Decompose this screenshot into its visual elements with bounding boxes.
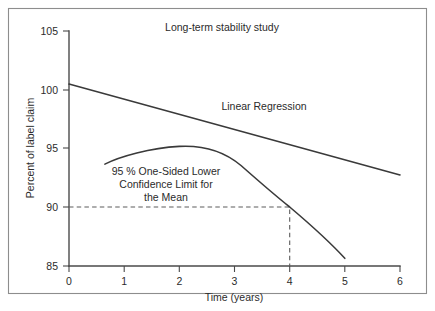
linear-regression-label: Linear Regression (221, 100, 306, 112)
x-tick-label-4: 4 (287, 275, 293, 287)
confidence-limit-label-line3: the Mean (144, 191, 188, 203)
confidence-limit-label: 95 % One-Sided Lower Confidence Limit fo… (112, 165, 221, 203)
x-tick-label-1: 1 (121, 275, 127, 287)
x-tick-label-5: 5 (342, 275, 348, 287)
x-tick-label-2: 2 (176, 275, 182, 287)
y-tick-label-95: 95 (46, 142, 58, 154)
x-axis-title: Time (years) (205, 291, 264, 303)
confidence-limit-label-line1: 95 % One-Sided Lower (112, 165, 221, 177)
y-tick-label-85: 85 (46, 260, 58, 272)
x-axis-ticks (69, 266, 400, 272)
x-tick-label-3: 3 (232, 275, 238, 287)
x-tick-label-0: 0 (66, 275, 72, 287)
y-axis-ticks (63, 31, 69, 266)
chart-title: Long-term stability study (165, 21, 280, 33)
stability-study-chart: 105 100 95 90 85 0 1 2 3 4 5 6 Long-term… (0, 0, 435, 311)
y-tick-label-100: 100 (40, 84, 58, 96)
y-tick-label-90: 90 (46, 201, 58, 213)
y-axis-title: Percent of label claim (24, 98, 36, 199)
confidence-limit-curve (105, 146, 345, 258)
figure-container: 105 100 95 90 85 0 1 2 3 4 5 6 Long-term… (0, 0, 435, 311)
y-tick-label-105: 105 (40, 25, 58, 37)
confidence-limit-label-line2: Confidence Limit for (119, 178, 213, 190)
shelf-life-guide-lines (69, 207, 290, 266)
x-tick-label-6: 6 (397, 275, 403, 287)
